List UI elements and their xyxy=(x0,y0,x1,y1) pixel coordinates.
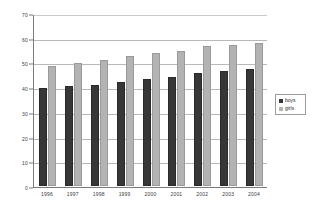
y-axis: 010203040506070 xyxy=(0,0,33,190)
x-axis-tick-label: 2004 xyxy=(241,191,267,197)
bar-group xyxy=(215,15,241,186)
y-axis-tick-label: 50 xyxy=(22,62,28,67)
y-axis-tick-label: 20 xyxy=(22,136,28,141)
x-axis-tick-label: 2001 xyxy=(163,191,189,197)
bar-girls xyxy=(48,66,56,186)
x-axis-tick-label: 1999 xyxy=(112,191,138,197)
y-axis-tick-label: 10 xyxy=(22,161,28,166)
legend-label-boys: boys xyxy=(285,98,296,103)
bar-boys xyxy=(143,79,151,186)
bar-groups xyxy=(35,15,267,186)
x-axis-tick-label: 2003 xyxy=(215,191,241,197)
bar-girls xyxy=(203,46,211,186)
bar-group xyxy=(61,15,87,186)
x-axis-tick-label: 1996 xyxy=(34,191,60,197)
bar-boys xyxy=(91,85,99,186)
y-axis-tick-label: 40 xyxy=(22,87,28,92)
bar-boys xyxy=(220,71,228,186)
legend: boys girls xyxy=(275,94,306,115)
bar-group xyxy=(190,15,216,186)
y-axis-tick-label: 60 xyxy=(22,37,28,42)
x-axis-tick-label: 2000 xyxy=(138,191,164,197)
legend-item-girls: girls xyxy=(279,106,303,111)
x-axis-labels: 199619971998199920002001200220032004 xyxy=(34,191,267,197)
bar-boys xyxy=(65,86,73,186)
bar-boys xyxy=(246,69,254,186)
bar-boys xyxy=(194,73,202,186)
bar-group xyxy=(87,15,113,186)
bar-group xyxy=(112,15,138,186)
x-axis-tick-label: 2002 xyxy=(189,191,215,197)
bar-girls xyxy=(74,63,82,186)
bar-boys xyxy=(117,82,125,186)
bar-chart: 010203040506070 199619971998199920002001… xyxy=(0,0,314,215)
bar-girls xyxy=(177,51,185,186)
bar-girls xyxy=(255,43,263,186)
legend-item-boys: boys xyxy=(279,98,303,103)
y-axis-tick-label: 0 xyxy=(25,186,28,191)
plot-area xyxy=(33,15,267,188)
bar-girls xyxy=(229,45,237,186)
bar-girls xyxy=(100,60,108,186)
x-axis-tick-label: 1997 xyxy=(60,191,86,197)
bar-girls xyxy=(152,53,160,186)
legend-swatch-girls-icon xyxy=(279,107,283,111)
bar-group xyxy=(138,15,164,186)
y-axis-tick-label: 70 xyxy=(22,13,28,18)
bar-group xyxy=(241,15,267,186)
x-axis-tick-label: 1998 xyxy=(86,191,112,197)
bar-girls xyxy=(126,56,134,186)
y-axis-tick-label: 30 xyxy=(22,111,28,116)
bar-boys xyxy=(39,88,47,186)
bar-boys xyxy=(168,77,176,186)
legend-label-girls: girls xyxy=(285,106,294,111)
bar-group xyxy=(164,15,190,186)
bar-group xyxy=(35,15,61,186)
legend-swatch-boys-icon xyxy=(279,99,283,103)
